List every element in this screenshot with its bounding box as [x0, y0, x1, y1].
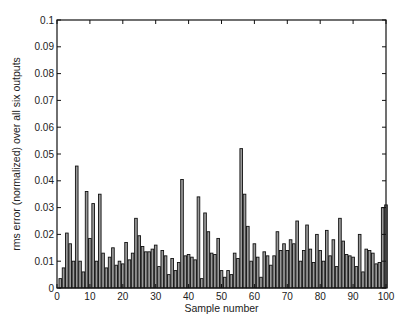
bar [210, 253, 213, 288]
bar [322, 261, 325, 288]
bar [95, 261, 98, 288]
x-tick-label: 100 [378, 291, 395, 302]
bar [332, 240, 335, 288]
x-tick-label: 30 [150, 291, 162, 302]
bar-chart: 00.010.020.030.040.050.060.070.080.090.1… [0, 0, 408, 329]
bar [365, 249, 368, 288]
bar [197, 197, 200, 288]
bar [378, 263, 381, 288]
bar [82, 272, 85, 288]
bar [217, 238, 220, 288]
bar [204, 213, 207, 288]
bar [302, 250, 305, 288]
bar [194, 260, 197, 288]
bar [335, 267, 338, 288]
bar [138, 236, 141, 288]
bar [174, 271, 177, 288]
bar [306, 225, 309, 288]
bar [243, 194, 246, 288]
y-axis-label: rms error (normalized) over all six outp… [10, 57, 22, 251]
bar [85, 192, 88, 288]
bar [131, 253, 134, 288]
plot-frame [57, 20, 386, 288]
bar [112, 248, 115, 288]
bar [102, 253, 105, 288]
bar [289, 240, 292, 288]
y-tick-label: 0.01 [35, 256, 55, 267]
bar [105, 268, 108, 288]
x-axis-label: Sample number [184, 302, 259, 314]
bar [256, 257, 259, 288]
bar [92, 204, 95, 288]
bar [191, 257, 194, 288]
bar [79, 261, 82, 288]
bar [227, 271, 230, 288]
bar [237, 259, 240, 288]
bar [154, 245, 157, 288]
bar [325, 230, 328, 288]
bar [233, 253, 236, 288]
bar [171, 259, 174, 288]
bar [247, 226, 250, 288]
bar [59, 279, 62, 288]
bar [164, 256, 167, 288]
bar [230, 275, 233, 288]
bar [273, 256, 276, 288]
bar [214, 255, 217, 289]
x-tick-label: 70 [282, 291, 294, 302]
bar [329, 256, 332, 288]
x-tick-label: 90 [348, 291, 360, 302]
bar [177, 263, 180, 288]
y-tick-label: 0.04 [35, 175, 55, 186]
y-tick-label: 0.05 [35, 149, 55, 160]
bar [266, 256, 269, 288]
bar [270, 265, 273, 288]
bar [309, 249, 312, 288]
bar [158, 267, 161, 288]
bar [141, 246, 144, 288]
bar [368, 250, 371, 288]
bar [200, 279, 203, 288]
bar [62, 268, 65, 288]
bar [276, 232, 279, 288]
bar [381, 208, 384, 288]
bar [342, 241, 345, 288]
bar [72, 261, 75, 288]
bar [286, 250, 289, 288]
bar [358, 234, 361, 288]
bar [316, 234, 319, 288]
bar [187, 255, 190, 289]
bar [250, 261, 253, 288]
bar [98, 194, 101, 288]
x-tick-label: 0 [54, 291, 60, 302]
bar [125, 242, 128, 288]
bar [319, 250, 322, 288]
bar [352, 257, 355, 288]
bar [168, 275, 171, 288]
bar [75, 166, 78, 288]
bar [312, 263, 315, 288]
bar [362, 272, 365, 288]
bar [207, 232, 210, 288]
bar [161, 250, 164, 288]
bar [223, 277, 226, 288]
bar [135, 218, 138, 288]
bar [296, 221, 299, 288]
bar [89, 238, 92, 288]
bar [108, 257, 111, 288]
bar [339, 218, 342, 288]
bar [118, 261, 121, 288]
x-tick-label: 20 [117, 291, 129, 302]
bar [151, 249, 154, 288]
x-tick-label: 60 [249, 291, 261, 302]
bar [372, 253, 375, 288]
y-tick-label: 0.07 [35, 95, 55, 106]
y-tick-label: 0.08 [35, 68, 55, 79]
x-tick-label: 50 [216, 291, 228, 302]
bar [299, 261, 302, 288]
bar [260, 277, 263, 288]
bar-series [59, 149, 387, 288]
x-tick-label: 40 [183, 291, 195, 302]
bar [355, 267, 358, 288]
y-tick-label: 0.1 [40, 15, 54, 26]
